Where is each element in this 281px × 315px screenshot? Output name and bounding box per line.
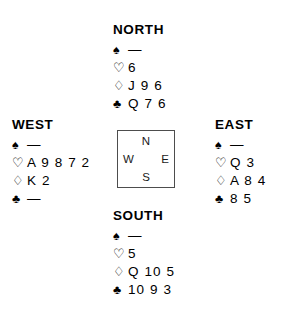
hand-north-label: NORTH <box>113 22 167 38</box>
hand-south-label: SOUTH <box>113 208 175 224</box>
hand-east-spades-row: ♠ — <box>215 136 266 154</box>
diamond-icon: ♢ <box>12 173 25 190</box>
hand-north-spades-row: ♠ — <box>113 41 167 59</box>
hand-north: NORTH ♠ — ♡ 6 ♢ J 9 6 ♣ Q 7 6 <box>113 22 167 113</box>
club-icon: ♣ <box>113 96 126 113</box>
hand-east-label: EAST <box>215 117 266 133</box>
hand-north-hearts: 6 <box>126 59 137 76</box>
hand-east-hearts-row: ♡ Q 3 <box>215 154 266 172</box>
heart-icon: ♡ <box>113 246 126 263</box>
heart-icon: ♡ <box>215 155 228 172</box>
hand-west-diamonds-row: ♢ K 2 <box>12 172 90 190</box>
hand-south-spades: — <box>126 227 143 244</box>
hand-east-diamonds-row: ♢ A 8 4 <box>215 172 266 190</box>
heart-icon: ♡ <box>12 155 25 172</box>
hand-south-diamonds: Q 10 5 <box>126 263 175 280</box>
hand-south-clubs-row: ♣ 10 9 3 <box>113 281 175 299</box>
compass-box: N W E S <box>117 130 175 188</box>
hand-south: SOUTH ♠ — ♡ 5 ♢ Q 10 5 ♣ 10 9 3 <box>113 208 175 299</box>
hand-west: WEST ♠ — ♡ A 9 8 7 2 ♢ K 2 ♣ — <box>12 117 90 208</box>
hand-north-spades: — <box>126 41 143 58</box>
hand-north-diamonds-row: ♢ J 9 6 <box>113 77 167 95</box>
hand-west-diamonds: K 2 <box>25 172 51 189</box>
diamond-icon: ♢ <box>113 264 126 281</box>
compass-south-label: S <box>142 171 150 183</box>
hand-north-hearts-row: ♡ 6 <box>113 59 167 77</box>
hand-west-spades: — <box>25 136 42 153</box>
hand-north-diamonds: J 9 6 <box>126 77 163 94</box>
hand-west-clubs-row: ♣ — <box>12 190 90 208</box>
hand-west-clubs: — <box>25 190 42 207</box>
heart-icon: ♡ <box>113 60 126 77</box>
compass-east-label: E <box>161 153 169 165</box>
diamond-icon: ♢ <box>113 78 126 95</box>
hand-east-hearts: Q 3 <box>228 154 255 171</box>
club-icon: ♣ <box>12 191 25 208</box>
hand-north-clubs: Q 7 6 <box>126 95 167 112</box>
spade-icon: ♠ <box>215 137 228 154</box>
hand-south-clubs: 10 9 3 <box>126 281 172 298</box>
hand-south-spades-row: ♠ — <box>113 227 175 245</box>
hand-south-diamonds-row: ♢ Q 10 5 <box>113 263 175 281</box>
hand-east-spades: — <box>228 136 245 153</box>
bridge-deal-diagram: NORTH ♠ — ♡ 6 ♢ J 9 6 ♣ Q 7 6 WEST ♠ — ♡… <box>0 0 281 315</box>
spade-icon: ♠ <box>113 42 126 59</box>
club-icon: ♣ <box>215 191 228 208</box>
hand-east: EAST ♠ — ♡ Q 3 ♢ A 8 4 ♣ 8 5 <box>215 117 266 208</box>
hand-west-hearts-row: ♡ A 9 8 7 2 <box>12 154 90 172</box>
club-icon: ♣ <box>113 282 126 299</box>
compass-north-label: N <box>142 135 150 147</box>
compass-west-label: W <box>123 153 134 165</box>
hand-south-hearts-row: ♡ 5 <box>113 245 175 263</box>
hand-west-label: WEST <box>12 117 90 133</box>
diamond-icon: ♢ <box>215 173 228 190</box>
hand-south-hearts: 5 <box>126 245 137 262</box>
hand-east-clubs-row: ♣ 8 5 <box>215 190 266 208</box>
spade-icon: ♠ <box>12 137 25 154</box>
hand-west-spades-row: ♠ — <box>12 136 90 154</box>
hand-north-clubs-row: ♣ Q 7 6 <box>113 95 167 113</box>
hand-east-clubs: 8 5 <box>228 190 252 207</box>
spade-icon: ♠ <box>113 228 126 245</box>
hand-west-hearts: A 9 8 7 2 <box>25 154 90 171</box>
hand-east-diamonds: A 8 4 <box>228 172 266 189</box>
